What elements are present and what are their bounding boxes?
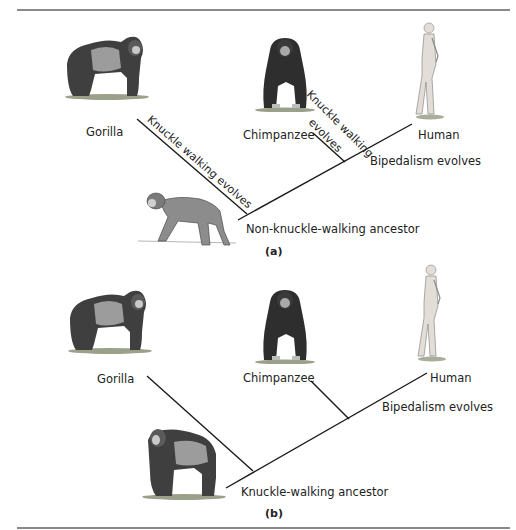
tree-a-chimp-branch <box>313 133 345 162</box>
tree-b-gorilla-branch <box>147 376 253 471</box>
tree-b-chimp-branch <box>311 381 349 419</box>
tree-a-gorilla-branch <box>137 119 247 214</box>
tree-a-main-trunk <box>238 124 412 220</box>
phylogeny-lines <box>0 0 516 530</box>
tree-b-main-trunk <box>226 373 427 488</box>
